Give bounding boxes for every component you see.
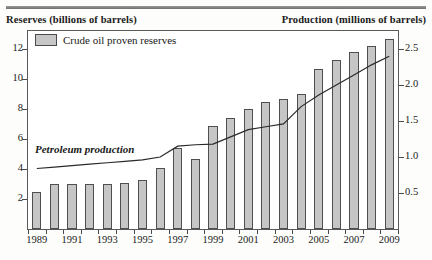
- x-tick-label-1993: 1993: [97, 234, 118, 245]
- y-tick-mark-4: [22, 169, 27, 170]
- x-tick-label-2001: 2001: [238, 234, 259, 245]
- y-tick-mark-10: [22, 79, 27, 80]
- y2-tick-mark-1: [399, 157, 404, 158]
- x-tick-mark-1993: [98, 230, 99, 234]
- legend: Crude oil proven reserves: [35, 34, 176, 46]
- plot-area: [27, 30, 399, 230]
- y-tick-label-4: 4: [3, 162, 23, 173]
- top-rule: [6, 6, 426, 9]
- x-tick-mark-2007: [345, 230, 346, 234]
- x-tick-mark-1991: [63, 230, 64, 234]
- y-tick-label-12: 12: [3, 42, 23, 53]
- y-tick-label-2: 2: [3, 192, 23, 203]
- x-tick-mark-2006: [328, 230, 329, 234]
- y-tick-mark-6: [22, 139, 27, 140]
- y2-tick-mark-0.5: [399, 193, 404, 194]
- legend-swatch-reserves: [35, 34, 57, 46]
- y2-tick-mark-2.5: [399, 49, 404, 50]
- y2-tick-label-2.5: 2.5: [405, 42, 429, 53]
- x-tick-mark-2002: [257, 230, 258, 234]
- y-tick-mark-12: [22, 49, 27, 50]
- y2-tick-mark-2: [399, 85, 404, 86]
- x-tick-mark-1994: [116, 230, 117, 234]
- x-tick-mark-1999: [204, 230, 205, 234]
- y-tick-mark-2: [22, 199, 27, 200]
- x-tick-label-2005: 2005: [308, 234, 329, 245]
- y2-tick-label-1: 1.0: [405, 150, 429, 161]
- x-tick-mark-1997: [169, 230, 170, 234]
- x-tick-mark-2001: [239, 230, 240, 234]
- x-tick-mark-2000: [222, 230, 223, 234]
- x-tick-label-1997: 1997: [167, 234, 188, 245]
- x-tick-mark-2009: [380, 230, 381, 234]
- y-tick-mark-8: [22, 109, 27, 110]
- y2-tick-label-1.5: 1.5: [405, 114, 429, 125]
- plot-inner: [28, 31, 398, 229]
- x-tick-mark-2008: [363, 230, 364, 234]
- x-tick-label-2009: 2009: [379, 234, 400, 245]
- x-tick-mark-1990: [46, 230, 47, 234]
- x-tick-mark-end: [398, 230, 399, 234]
- y-tick-label-6: 6: [3, 132, 23, 143]
- y-tick-label-8: 8: [3, 102, 23, 113]
- x-tick-mark-1989: [28, 230, 29, 234]
- x-tick-mark-1995: [134, 230, 135, 234]
- y2-tick-mark-1.5: [399, 121, 404, 122]
- x-tick-mark-2003: [275, 230, 276, 234]
- x-tick-mark-1996: [151, 230, 152, 234]
- right-axis-title: Production (millions of barrels): [282, 14, 426, 25]
- legend-label-reserves: Crude oil proven reserves: [63, 34, 176, 46]
- x-tick-label-1999: 1999: [203, 234, 224, 245]
- x-tick-label-1989: 1989: [26, 234, 47, 245]
- x-tick-label-2007: 2007: [343, 234, 364, 245]
- y2-tick-label-0.5: 0.5: [405, 186, 429, 197]
- chart-page: Reserves (billions of barrels) Productio…: [0, 0, 432, 260]
- x-tick-label-2003: 2003: [273, 234, 294, 245]
- x-tick-label-1995: 1995: [132, 234, 153, 245]
- line-series-label: Petroleum production: [35, 143, 134, 155]
- line-series: [28, 31, 398, 229]
- y2-tick-label-2: 2.0: [405, 78, 429, 89]
- x-tick-mark-2004: [292, 230, 293, 234]
- x-tick-mark-1992: [81, 230, 82, 234]
- x-tick-mark-2005: [310, 230, 311, 234]
- x-tick-mark-1998: [187, 230, 188, 234]
- x-tick-label-1991: 1991: [62, 234, 83, 245]
- y-tick-label-10: 10: [3, 72, 23, 83]
- left-axis-title: Reserves (billions of barrels): [6, 14, 137, 25]
